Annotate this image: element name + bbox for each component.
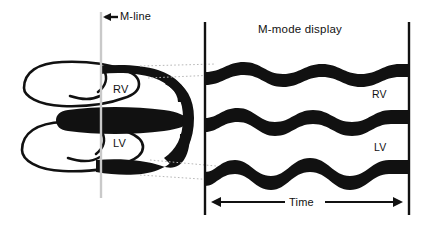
lv-anatomy-label: LV	[113, 137, 126, 149]
mmode-panel	[205, 22, 409, 215]
lv-trace-label: LV	[374, 141, 386, 153]
left-arrow-icon	[103, 13, 118, 21]
interventricular-septum-anat	[56, 107, 188, 134]
mmode-trace-septum	[205, 108, 409, 136]
mmode-trace-anterior-rv-wall	[205, 62, 409, 87]
mmode-trace-posterior-lv-wall	[205, 158, 409, 190]
mmode-echo-figure: M-line M-mode display RV LV RV LV Time	[0, 0, 424, 230]
mmode-display-title: M-mode display	[258, 23, 342, 35]
m-line-label: M-line	[120, 10, 151, 22]
figure-canvas	[0, 0, 424, 230]
rv-trace-label: RV	[372, 88, 387, 100]
time-axis-label: Time	[289, 196, 314, 208]
rv-anatomy-label: RV	[113, 83, 128, 95]
anatomy-panel	[22, 12, 194, 198]
